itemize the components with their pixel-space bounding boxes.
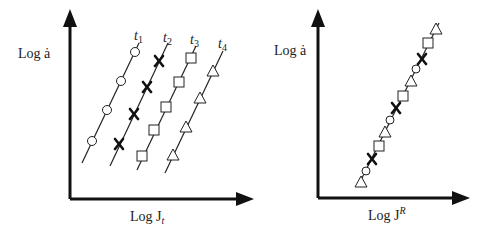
- series-t2-label: t2: [163, 30, 172, 47]
- cross-marker-icon: [392, 103, 400, 113]
- square-marker-icon: [423, 38, 433, 48]
- left-x-axis-arrow-icon: [236, 192, 254, 206]
- circle-marker-icon: [412, 65, 420, 73]
- circle-marker-icon: [386, 116, 394, 124]
- series-t3-markers: [137, 53, 196, 161]
- circle-marker-icon: [362, 167, 370, 175]
- triangle-marker-icon: [379, 126, 391, 137]
- square-marker-icon: [137, 151, 147, 161]
- cross-marker-icon: [143, 82, 151, 92]
- cross-marker-icon: [155, 56, 163, 66]
- right-x-axis-arrow-icon: [452, 191, 470, 205]
- triangle-marker-icon: [207, 65, 219, 76]
- circle-marker-icon: [88, 137, 97, 146]
- square-marker-icon: [174, 77, 184, 87]
- series-t1-label: t1: [134, 28, 143, 45]
- triangle-marker-icon: [167, 149, 179, 160]
- circle-marker-icon: [103, 106, 112, 115]
- cross-marker-icon: [130, 109, 138, 119]
- left-y-label: Log ȧ: [18, 46, 51, 61]
- triangle-marker-icon: [430, 23, 442, 34]
- master-curve-markers: [355, 23, 442, 187]
- right-y-label: Log ȧ: [274, 43, 307, 58]
- square-marker-icon: [161, 102, 171, 112]
- left-panel: Log ȧ Log Jt t1 t2 t3 t4: [18, 9, 254, 226]
- figure: Log ȧ Log Jt t1 t2 t3 t4: [0, 0, 490, 235]
- square-marker-icon: [398, 91, 408, 101]
- square-marker-icon: [149, 125, 159, 135]
- right-panel: Log ȧ Log JR: [274, 9, 470, 223]
- series-t4-label: t4: [218, 36, 227, 53]
- right-x-label: Log JR: [368, 205, 406, 223]
- triangle-marker-icon: [355, 176, 367, 187]
- cross-marker-icon: [368, 154, 376, 164]
- square-marker-icon: [186, 53, 196, 63]
- left-x-label: Log Jt: [130, 209, 165, 226]
- circle-marker-icon: [117, 77, 126, 86]
- left-y-axis-arrow-icon: [63, 9, 77, 27]
- right-y-axis-arrow-icon: [311, 9, 325, 27]
- circle-marker-icon: [131, 48, 140, 57]
- triangle-marker-icon: [194, 92, 206, 103]
- triangle-marker-icon: [405, 75, 417, 86]
- cross-marker-icon: [418, 54, 426, 64]
- series-t3-label: t3: [190, 32, 199, 49]
- triangle-marker-icon: [180, 121, 192, 132]
- square-marker-icon: [374, 141, 384, 151]
